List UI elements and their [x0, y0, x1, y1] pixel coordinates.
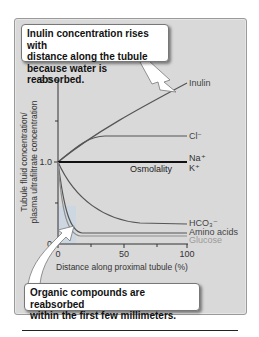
divider — [22, 330, 238, 331]
xtick-0: 0 — [55, 249, 60, 259]
arrow-bottom — [28, 226, 74, 284]
label-cl: Cl⁻ — [189, 131, 203, 141]
x-axis-label: Distance along proximal tubule (%) — [56, 262, 188, 272]
annotation-top-line-1: Inulin concentration rises with — [27, 28, 163, 51]
label-glucose: Glucose — [189, 235, 222, 245]
annotation-bottom-line-2: within the first few millimeters. — [30, 310, 194, 322]
y-axis-label-1: Tubule fluid concentration/ — [19, 112, 29, 212]
xtick-100: 100 — [179, 249, 194, 259]
label-osmolality: Osmolality — [130, 164, 173, 174]
label-k: K⁺ — [189, 163, 200, 173]
xtick-50: 50 — [119, 249, 129, 259]
annotation-organic: Organic compounds are reabsorbed within … — [24, 283, 200, 311]
annotation-inulin: Inulin concentration rises with distance… — [21, 24, 169, 62]
annotation-top-line-2: distance along the tubule — [27, 51, 163, 63]
label-inulin: Inulin — [189, 78, 211, 88]
label-na: Na⁺ — [189, 153, 206, 163]
annotation-bottom-line-1: Organic compounds are reabsorbed — [30, 287, 194, 310]
line-cl — [58, 136, 187, 162]
y-axis-label-2: plasma ultrafiltrate concentration — [29, 100, 39, 223]
ytick-1: 1.0 — [39, 157, 52, 167]
annotation-top-line-3: because water is reabsorbed. — [27, 63, 163, 86]
line-inulin — [58, 83, 187, 162]
